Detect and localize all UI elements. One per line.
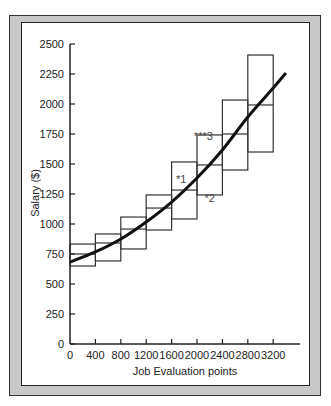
y-tick-label: 2000 [40, 98, 64, 110]
pay-grade-box [121, 217, 146, 249]
y-tick-label: 0 [58, 338, 64, 350]
chart: 02505007501000125015001750200022502500 0… [0, 0, 331, 406]
annotation-label: *2 [204, 192, 214, 204]
x-tick-label: 800 [112, 349, 130, 361]
x-tick-label: 2800 [236, 349, 260, 361]
y-tick-label: 1250 [40, 188, 64, 200]
annotation-label: *1 [176, 173, 186, 185]
x-tick-label: 0 [67, 349, 73, 361]
annotation-label: ***3 [194, 130, 213, 142]
y-tick-label: 2500 [40, 38, 64, 50]
y-tick-label: 1750 [40, 128, 64, 140]
x-tick-label: 2400 [210, 349, 234, 361]
y-tick-label: 1500 [40, 158, 64, 170]
x-tick-label: 3200 [261, 349, 285, 361]
y-tick-label: 500 [46, 278, 64, 290]
x-tick-label: 1600 [159, 349, 183, 361]
y-tick-label: 2250 [40, 68, 64, 80]
y-tick-label: 250 [46, 308, 64, 320]
x-tick-label: 2000 [185, 349, 209, 361]
y-axis-title: Salary ($) [29, 169, 41, 217]
x-axis-title: Job Evaluation points [133, 365, 238, 377]
pay-grade-boxes [70, 55, 273, 266]
x-ticks: 0400800120016002000240028003200 [67, 339, 286, 361]
axes [70, 44, 300, 344]
y-tick-label: 1000 [40, 218, 64, 230]
x-tick-label: 400 [86, 349, 104, 361]
y-tick-label: 750 [46, 248, 64, 260]
x-tick-label: 1200 [134, 349, 158, 361]
